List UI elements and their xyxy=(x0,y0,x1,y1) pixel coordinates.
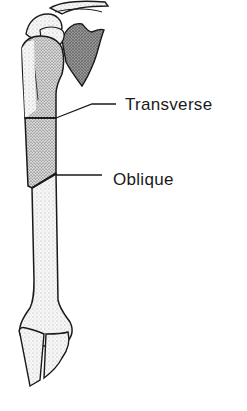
label-transverse: Transverse xyxy=(125,96,212,113)
radius-ulna xyxy=(19,327,69,386)
humerus-proximal xyxy=(22,36,64,118)
transverse-leader-line xyxy=(56,104,116,118)
humerus-distal-shaft xyxy=(20,174,72,346)
humerus-diagram xyxy=(0,0,247,411)
scapula xyxy=(62,24,104,86)
label-oblique: Oblique xyxy=(113,171,174,188)
clavicle xyxy=(50,1,108,14)
